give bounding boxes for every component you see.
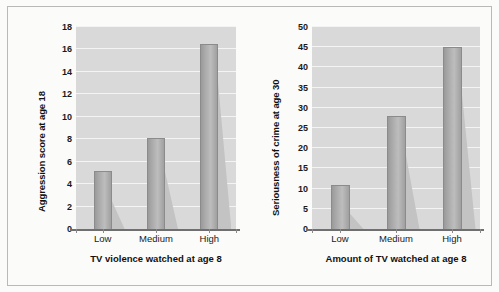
y-tick-label: 50 [286, 23, 308, 32]
x-tick-label-medium: Medium [139, 233, 173, 244]
y-tick-label: 30 [286, 103, 308, 112]
x-axis-line-right [306, 229, 484, 231]
bar-low[interactable] [331, 185, 350, 229]
y-tick-label: 14 [50, 67, 72, 76]
y-axis-ticks-right: 05101520253035404550 [284, 27, 308, 229]
x-axis-title-left: TV violence watched at age 8 [90, 253, 221, 264]
x-tick-label-medium: Medium [379, 233, 413, 244]
y-tick-label: 35 [286, 83, 308, 92]
y-tick-label: 10 [50, 112, 72, 121]
y-axis-title-left: Aggression score at age 18 [36, 91, 47, 212]
y-tick-label: 5 [286, 204, 308, 213]
y-tick-label: 12 [50, 90, 72, 99]
y-tick-label: 15 [286, 164, 308, 173]
y-axis-ticks-left: 024681012141618 [48, 27, 72, 229]
y-tick-label: 4 [50, 180, 72, 189]
bar-shadow [217, 60, 231, 229]
y-axis-title-right: Seriousness of crime at age 30 [270, 80, 281, 216]
x-tick-label-low: Low [94, 233, 111, 244]
bar-medium[interactable] [147, 138, 165, 229]
y-tick-label: 8 [50, 135, 72, 144]
bar-shadow [164, 154, 178, 229]
y-tick-label: 16 [50, 45, 72, 54]
y-tick-label: 25 [286, 124, 308, 133]
plot-area-left [76, 27, 236, 229]
bar-high[interactable] [443, 47, 462, 229]
y-tick-label: 45 [286, 43, 308, 52]
y-tick-label: 6 [50, 157, 72, 166]
y-tick-label: 0 [286, 225, 308, 234]
bar-shadow [111, 187, 125, 229]
x-tick-mark [236, 229, 237, 233]
bar-high[interactable] [200, 44, 218, 229]
chart-panel-left: Aggression score at age 18 0246810121416… [14, 0, 246, 292]
x-tick-mark [76, 229, 77, 233]
bar-medium[interactable] [387, 116, 406, 229]
x-axis-line-left [70, 229, 240, 231]
plot-area-right [312, 27, 480, 229]
y-tick-label: 20 [286, 144, 308, 153]
x-tick-label-low: Low [331, 233, 348, 244]
y-tick-label: 40 [286, 63, 308, 72]
bar-low[interactable] [94, 171, 112, 229]
figure-canvas: Aggression score at age 18 0246810121416… [0, 0, 499, 292]
gridline [312, 26, 480, 27]
x-axis-title-right: Amount of TV watched at age 8 [326, 253, 467, 264]
bar-shadow [349, 202, 364, 229]
gridline [76, 26, 236, 27]
x-tick-mark [312, 229, 313, 233]
y-tick-label: 18 [50, 23, 72, 32]
y-tick-label: 0 [50, 225, 72, 234]
x-tick-label-high: High [442, 233, 462, 244]
chart-panel-right: Seriousness of crime at age 30 051015202… [248, 0, 488, 292]
x-tick-mark [480, 229, 481, 233]
y-tick-label: 2 [50, 202, 72, 211]
y-tick-label: 10 [286, 184, 308, 193]
x-tick-label-high: High [200, 233, 220, 244]
